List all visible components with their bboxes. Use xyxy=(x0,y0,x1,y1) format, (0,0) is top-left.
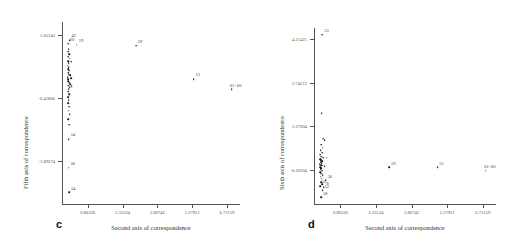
x-axis-tick-label: 5.27951 xyxy=(440,210,455,215)
x-axis-tick xyxy=(447,204,448,208)
data-point xyxy=(68,167,70,169)
data-point xyxy=(68,62,70,64)
data-point xyxy=(69,113,71,115)
data-point-label: 56 xyxy=(328,173,332,178)
y-axis-tick xyxy=(58,161,62,162)
data-point xyxy=(68,191,70,193)
y-axis-tick-label: 1.27004 xyxy=(292,124,307,129)
data-point xyxy=(68,96,70,98)
x-axis-tick-label: 6.75159 xyxy=(220,210,235,215)
data-point xyxy=(69,58,71,60)
x-axis-tick-label: 0.86326 xyxy=(80,210,95,215)
y-axis-tick-label: 1.05342 xyxy=(40,32,55,37)
data-point xyxy=(68,118,70,120)
data-point xyxy=(321,112,323,114)
data-point xyxy=(324,140,326,142)
data-point xyxy=(71,61,73,63)
data-point xyxy=(388,167,390,169)
data-point xyxy=(68,51,70,53)
panel-letter: c xyxy=(56,218,62,230)
data-point xyxy=(437,167,439,169)
data-point xyxy=(69,93,71,95)
x-axis-tick xyxy=(483,204,484,208)
data-point xyxy=(320,150,322,152)
y-axis-tick-label: 4.21421 xyxy=(292,37,307,42)
data-point xyxy=(71,85,73,87)
data-point xyxy=(322,147,324,149)
data-point-label: 51 xyxy=(196,72,200,77)
x-axis-tick-label: 5.27951 xyxy=(185,210,200,215)
data-point xyxy=(69,124,71,126)
data-point xyxy=(322,174,324,176)
y-axis-tick-label: -0.20204 xyxy=(290,168,307,173)
data-point xyxy=(322,34,324,36)
panel-d: 4.214212.742121.27004-0.202040.863262.33… xyxy=(256,0,512,249)
data-point xyxy=(68,88,70,90)
x-axis-title: Second axis of correspondence xyxy=(314,224,496,231)
data-point xyxy=(68,53,70,55)
data-point-label: 61+60 xyxy=(484,164,495,169)
panel-c: 1.05342-0.41866-1.890740.863262.335343.8… xyxy=(0,0,256,249)
y-axis-title: Fifth axis of correspondence xyxy=(22,117,29,190)
x-axis-tick-label: 2.33534 xyxy=(369,210,384,215)
x-axis-tick-label: 6.75159 xyxy=(475,210,490,215)
x-axis-tick xyxy=(123,204,124,208)
data-point xyxy=(68,106,70,108)
data-point xyxy=(324,166,326,168)
data-point xyxy=(68,48,70,50)
data-point-label: 14 xyxy=(71,132,75,137)
data-point-label: 58 xyxy=(323,190,327,195)
data-point-label: 61+60 xyxy=(230,82,241,87)
x-axis-tick xyxy=(412,204,413,208)
data-point-label: 51 xyxy=(439,160,443,165)
data-point xyxy=(68,138,70,140)
x-axis-tick-label: 3.80742 xyxy=(404,210,419,215)
x-axis-tick-label: 3.80742 xyxy=(150,210,165,215)
data-point-label: 54 xyxy=(71,185,75,190)
data-point xyxy=(68,99,70,101)
x-axis-tick xyxy=(157,204,158,208)
y-axis-tick xyxy=(310,39,314,40)
y-axis-tick-label: -1.89074 xyxy=(38,158,55,163)
x-axis-tick-label: 0.86326 xyxy=(333,210,348,215)
data-point xyxy=(76,44,78,46)
data-point xyxy=(135,45,137,47)
y-axis-tick xyxy=(310,126,314,127)
data-point xyxy=(321,170,323,172)
x-axis-tick xyxy=(376,204,377,208)
y-axis-title: Sixth axis of correspondence xyxy=(278,116,285,190)
data-point xyxy=(70,77,72,79)
data-point xyxy=(321,144,323,146)
data-point xyxy=(319,185,321,187)
x-axis-tick xyxy=(227,204,228,208)
data-point xyxy=(68,110,70,112)
data-point-label: 19 xyxy=(79,38,83,43)
data-point xyxy=(67,103,69,105)
x-axis-tick xyxy=(192,204,193,208)
y-axis-tick-label: 2.74212 xyxy=(292,80,307,85)
data-point-label: 59 xyxy=(138,39,142,44)
x-axis-title: Second axis of correspondence xyxy=(62,224,240,231)
y-axis-tick xyxy=(58,98,62,99)
data-point-label: 58 xyxy=(70,161,74,166)
y-axis-tick-label: -0.41866 xyxy=(38,95,55,100)
data-point-label: 59 xyxy=(391,160,395,165)
data-point-label: 52 xyxy=(324,183,328,188)
figure-container: 1.05342-0.41866-1.890740.863262.335343.8… xyxy=(0,0,512,249)
y-axis-tick xyxy=(310,170,314,171)
data-point xyxy=(485,170,487,172)
x-axis-tick-label: 2.33534 xyxy=(115,210,130,215)
y-axis-line xyxy=(314,28,315,204)
data-point xyxy=(193,78,195,80)
data-point xyxy=(320,196,322,198)
y-axis-tick xyxy=(310,83,314,84)
x-axis-tick xyxy=(88,204,89,208)
panel-letter: d xyxy=(308,218,315,230)
data-point xyxy=(69,74,71,76)
data-point xyxy=(231,88,233,90)
data-point xyxy=(321,152,323,154)
data-point xyxy=(326,157,328,159)
data-point-label: 53 xyxy=(324,28,328,33)
data-point-label: 20 xyxy=(70,37,74,42)
x-axis-tick xyxy=(340,204,341,208)
